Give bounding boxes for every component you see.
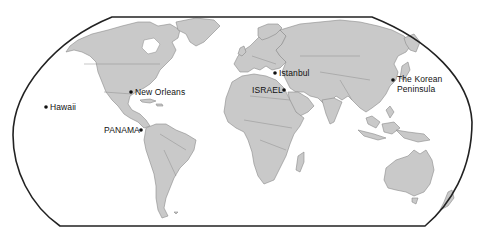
marker-dot-hawaii[interactable]	[44, 105, 48, 109]
label-panama: PANAMA	[104, 125, 140, 135]
label-korean-line1: The Korean	[397, 74, 442, 84]
marker-dot-istanbul[interactable]	[273, 71, 277, 75]
marker-dot-new-orleans[interactable]	[129, 90, 133, 94]
label-istanbul: Istanbul	[279, 68, 310, 78]
marker-dot-korean-peninsula[interactable]	[391, 78, 395, 82]
world-map	[0, 0, 485, 240]
label-korean-line2: Peninsula	[397, 84, 442, 94]
label-israel: ISRAEL	[252, 85, 283, 95]
label-hawaii: Hawaii	[50, 102, 76, 112]
label-new-orleans: New Orleans	[135, 87, 185, 97]
label-korean-peninsula: The Korean Peninsula	[397, 74, 442, 94]
